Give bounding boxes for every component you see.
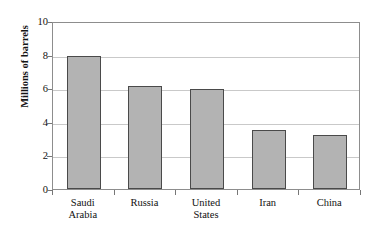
bar xyxy=(313,135,347,189)
chart-title xyxy=(0,0,384,5)
x-category-label-line: States xyxy=(175,209,237,221)
x-tick-mark xyxy=(298,190,299,195)
y-tick-mark xyxy=(47,156,52,157)
bar xyxy=(252,130,286,189)
bar-chart-figure: Millions of barrels 0246810 SaudiArabiaR… xyxy=(0,0,384,237)
x-category-label: SaudiArabia xyxy=(52,197,114,220)
y-tick-label: 8 xyxy=(20,51,48,61)
x-tick-mark xyxy=(175,190,176,195)
bar xyxy=(128,86,162,189)
x-category-label-line: Russia xyxy=(114,197,176,209)
x-tick-mark xyxy=(52,190,53,195)
x-category-label-line: Saudi xyxy=(52,197,114,209)
x-category-label-line: Arabia xyxy=(52,209,114,221)
y-tick-label: 10 xyxy=(20,17,48,27)
y-tick-label: 6 xyxy=(20,84,48,94)
x-category-label: Russia xyxy=(114,197,176,209)
y-tick-label: 4 xyxy=(20,118,48,128)
bar xyxy=(67,56,101,189)
x-category-label: China xyxy=(298,197,360,209)
bar xyxy=(190,89,224,189)
x-tick-mark xyxy=(114,190,115,195)
y-tick-mark xyxy=(47,89,52,90)
x-category-label-line: United xyxy=(175,197,237,209)
x-category-label-line: China xyxy=(298,197,360,209)
x-tick-mark xyxy=(360,190,361,195)
y-tick-mark xyxy=(47,123,52,124)
y-tick-mark xyxy=(47,22,52,23)
y-tick-mark xyxy=(47,56,52,57)
x-category-label: Iran xyxy=(237,197,299,209)
y-tick-label: 2 xyxy=(20,151,48,161)
x-category-label: UnitedStates xyxy=(175,197,237,220)
x-category-label-line: Iran xyxy=(237,197,299,209)
x-tick-mark xyxy=(237,190,238,195)
y-tick-label: 0 xyxy=(20,185,48,195)
plot-area xyxy=(52,22,360,190)
